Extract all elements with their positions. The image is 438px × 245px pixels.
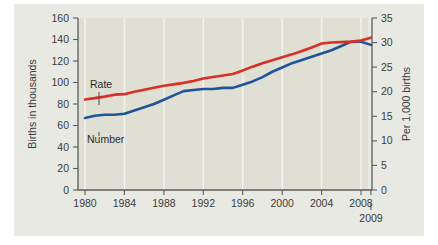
right-tick-label: 35 [381,12,393,24]
births-rate-line-chart: 0 20 40 60 80 100 120 140 160 0 5 10 15 [14,4,424,236]
left-axis-title: Births in thousands [26,59,38,148]
x-tick-label: 2008 [349,197,373,209]
left-tick-label: 120 [51,55,69,67]
x-tick-label: 1980 [73,197,97,209]
right-tick-label: 20 [381,85,393,97]
x-tick-label-final-year: 2009 [359,212,383,224]
right-tick-label: 5 [381,159,387,171]
x-tick-label: 1992 [192,197,216,209]
left-tick-label: 140 [51,33,69,45]
right-tick-label: 0 [381,184,387,196]
right-tick-label: 25 [381,61,393,73]
left-tick-label: 40 [57,141,69,153]
x-tick-label: 1988 [152,197,176,209]
left-axis-ticks [73,18,78,190]
right-axis-ticks [372,18,377,190]
right-tick-label: 15 [381,110,393,122]
x-axis-tick-labels: 1980 1984 1988 1992 1996 2000 2004 2008 … [73,197,383,224]
x-tick-label: 1984 [113,197,137,209]
annotation-rate-label: Rate [90,78,112,90]
left-tick-label: 20 [57,162,69,174]
x-tick-label: 1996 [231,197,255,209]
x-tick-label: 2004 [310,197,334,209]
annotation-number: Number [87,132,125,145]
left-tick-label: 100 [51,76,69,88]
annotation-number-label: Number [87,133,125,145]
left-axis-tick-labels: 0 20 40 60 80 100 120 140 160 [51,12,69,196]
x-tick-label: 2000 [271,197,295,209]
right-axis-title: Per 1,000 births [400,67,412,141]
left-tick-label: 80 [57,98,69,110]
left-tick-label: 60 [57,119,69,131]
right-tick-label: 30 [381,36,393,48]
right-tick-label: 10 [381,134,393,146]
left-tick-label: 160 [51,12,69,24]
left-tick-label: 0 [63,184,69,196]
chart-card: 0 20 40 60 80 100 120 140 160 0 5 10 15 [14,4,424,236]
right-axis-tick-labels: 0 5 10 15 20 25 30 35 [381,12,393,196]
